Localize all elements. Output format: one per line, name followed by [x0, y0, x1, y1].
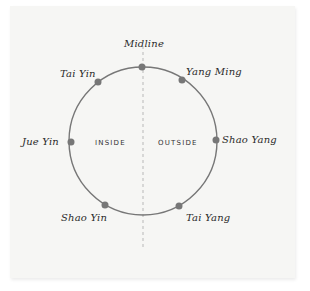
dot-tai-yang [176, 203, 183, 210]
label-shao-yin: Shao Yin [61, 212, 107, 223]
dot-shao-yin [102, 202, 109, 209]
dot-tai-yin [95, 79, 102, 86]
dot-jue-yin [68, 139, 75, 146]
label-shao-yang: Shao Yang [222, 134, 277, 145]
label-yang-ming: Yang Ming [186, 66, 242, 77]
dot-yang-ming [179, 77, 186, 84]
label-tai-yin: Tai Yin [60, 68, 96, 79]
label-tai-yang: Tai Yang [186, 212, 230, 223]
dot-shao-yang [213, 137, 220, 144]
region-inside: INSIDE [95, 139, 126, 147]
region-outside: OUTSIDE [158, 139, 198, 147]
label-midline: Midline [124, 38, 164, 49]
label-jue-yin: Jue Yin [22, 136, 59, 147]
dot-midline [139, 64, 146, 71]
